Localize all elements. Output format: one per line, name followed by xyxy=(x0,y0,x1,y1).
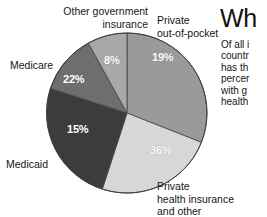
category-label-medicaid: Medicaid xyxy=(6,158,48,171)
slice-value-other-government-insurance: 8% xyxy=(104,54,120,66)
category-label-line: out-of-pocket xyxy=(157,27,218,40)
article-headline: Wh xyxy=(220,5,257,32)
slice-value-medicare: 22% xyxy=(63,73,84,85)
article-body-line: Of all i xyxy=(221,39,249,50)
article-body-line: countr xyxy=(221,50,249,61)
slice-value-private-out-of-pocket: 19% xyxy=(152,51,173,63)
pie-chart-figure: 19% 36% 15% 22% 8% Other government insu… xyxy=(0,0,267,217)
article-column: Wh Of all i countr has th percer with g … xyxy=(216,0,267,217)
category-label-line: insurance xyxy=(0,18,148,31)
slice-value-medicaid: 15% xyxy=(67,123,88,135)
article-body-line: percer xyxy=(221,73,249,84)
slice-value-private-health-insurance: 36% xyxy=(150,144,171,156)
article-body-line: with g xyxy=(221,85,249,96)
article-body: Of all i countr has th percer with g hea… xyxy=(221,39,249,107)
article-body-line: health xyxy=(221,96,249,107)
category-label-line: Other government xyxy=(0,5,148,18)
category-label-line: Medicare xyxy=(10,59,53,72)
category-label-line: Medicaid xyxy=(6,158,48,171)
article-body-line: has th xyxy=(221,62,249,73)
category-label-medicare: Medicare xyxy=(10,59,53,72)
category-label-line: Private xyxy=(157,14,218,27)
category-label-private-out-of-pocket: Private out-of-pocket xyxy=(157,14,218,39)
category-label-other-government-insurance: Other government insurance xyxy=(0,5,148,30)
